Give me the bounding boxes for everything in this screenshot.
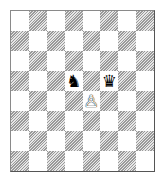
square-d7[interactable]	[65, 31, 83, 51]
chess-board: ♞♛♙	[10, 10, 155, 172]
square-f3[interactable]	[100, 111, 118, 131]
square-a2[interactable]	[11, 131, 29, 151]
square-e1[interactable]	[83, 151, 101, 171]
square-a8[interactable]	[11, 11, 29, 31]
square-e7[interactable]	[83, 31, 101, 51]
square-h5[interactable]	[136, 71, 154, 91]
square-e8[interactable]	[83, 11, 101, 31]
square-g4[interactable]	[118, 91, 136, 111]
black-queen-icon[interactable]: ♛	[102, 73, 117, 90]
square-b1[interactable]	[29, 151, 47, 171]
square-g6[interactable]	[118, 51, 136, 71]
square-g5[interactable]	[118, 71, 136, 91]
square-f5[interactable]: ♛	[100, 71, 118, 91]
square-e3[interactable]	[83, 111, 101, 131]
square-b8[interactable]	[29, 11, 47, 31]
black-knight-icon[interactable]: ♞	[66, 73, 81, 90]
square-g1[interactable]	[118, 151, 136, 171]
square-h2[interactable]	[136, 131, 154, 151]
square-b4[interactable]	[29, 91, 47, 111]
square-b2[interactable]	[29, 131, 47, 151]
square-b7[interactable]	[29, 31, 47, 51]
square-g3[interactable]	[118, 111, 136, 131]
square-g8[interactable]	[118, 11, 136, 31]
square-c1[interactable]	[47, 151, 65, 171]
square-d8[interactable]	[65, 11, 83, 31]
square-a6[interactable]	[11, 51, 29, 71]
square-d4[interactable]	[65, 91, 83, 111]
square-b6[interactable]	[29, 51, 47, 71]
square-a4[interactable]	[11, 91, 29, 111]
square-h3[interactable]	[136, 111, 154, 131]
square-f8[interactable]	[100, 11, 118, 31]
square-d2[interactable]	[65, 131, 83, 151]
square-c4[interactable]	[47, 91, 65, 111]
square-b5[interactable]	[29, 71, 47, 91]
square-d6[interactable]	[65, 51, 83, 71]
square-c7[interactable]	[47, 31, 65, 51]
white-pawn-icon[interactable]: ♙	[84, 93, 99, 110]
square-a5[interactable]	[11, 71, 29, 91]
square-c8[interactable]	[47, 11, 65, 31]
square-a7[interactable]	[11, 31, 29, 51]
square-f4[interactable]	[100, 91, 118, 111]
square-h8[interactable]	[136, 11, 154, 31]
square-c3[interactable]	[47, 111, 65, 131]
square-e5[interactable]	[83, 71, 101, 91]
square-e4[interactable]: ♙	[83, 91, 101, 111]
square-e6[interactable]	[83, 51, 101, 71]
square-d1[interactable]	[65, 151, 83, 171]
square-f6[interactable]	[100, 51, 118, 71]
square-a1[interactable]	[11, 151, 29, 171]
square-c6[interactable]	[47, 51, 65, 71]
square-h7[interactable]	[136, 31, 154, 51]
square-f7[interactable]	[100, 31, 118, 51]
square-d5[interactable]: ♞	[65, 71, 83, 91]
square-h4[interactable]	[136, 91, 154, 111]
square-g7[interactable]	[118, 31, 136, 51]
square-g2[interactable]	[118, 131, 136, 151]
square-h6[interactable]	[136, 51, 154, 71]
square-c5[interactable]	[47, 71, 65, 91]
square-h1[interactable]	[136, 151, 154, 171]
square-c2[interactable]	[47, 131, 65, 151]
square-f2[interactable]	[100, 131, 118, 151]
square-b3[interactable]	[29, 111, 47, 131]
square-f1[interactable]	[100, 151, 118, 171]
square-e2[interactable]	[83, 131, 101, 151]
square-a3[interactable]	[11, 111, 29, 131]
square-d3[interactable]	[65, 111, 83, 131]
